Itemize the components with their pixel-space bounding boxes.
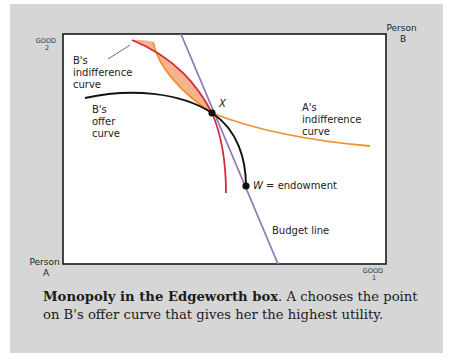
point-x [208, 109, 215, 116]
person-a-line1: Person [29, 257, 59, 267]
point-w-endowment [242, 182, 249, 189]
budget-line-label: Budget line [272, 225, 329, 236]
point-x-label: X [218, 98, 227, 109]
endowment-label: W = endowment [253, 180, 337, 191]
person-b-label: Person B [386, 23, 419, 44]
person-a-label: Person A [29, 257, 62, 278]
a-indiff-line2: indifference [302, 114, 361, 125]
good-1-label: GOOD 1 [363, 267, 385, 282]
person-a-line2: A [43, 268, 50, 278]
caption-title: Monopoly in the Edgeworth box [43, 289, 278, 304]
good-2-line2: 2 [45, 44, 49, 52]
b-offer-line1: B's [92, 104, 107, 115]
a-indiff-line3: curve [302, 126, 330, 137]
good-2-label: GOOD 2 [36, 37, 58, 52]
b-indiff-line3: curve [73, 79, 101, 90]
person-b-line2: B [400, 34, 406, 44]
b-offer-line2: offer [92, 116, 116, 127]
b-indiff-line1: B's [73, 55, 88, 66]
endowment-text: = endowment [263, 180, 337, 191]
a-indiff-line1: A's [302, 102, 317, 113]
good-1-line2: 1 [372, 274, 376, 282]
b-indiff-line2: indifference [73, 67, 132, 78]
b-offer-line3: curve [92, 128, 120, 139]
person-b-line1: Person [386, 23, 416, 33]
figure-caption: Monopoly in the Edgeworth box. A chooses… [43, 288, 423, 324]
